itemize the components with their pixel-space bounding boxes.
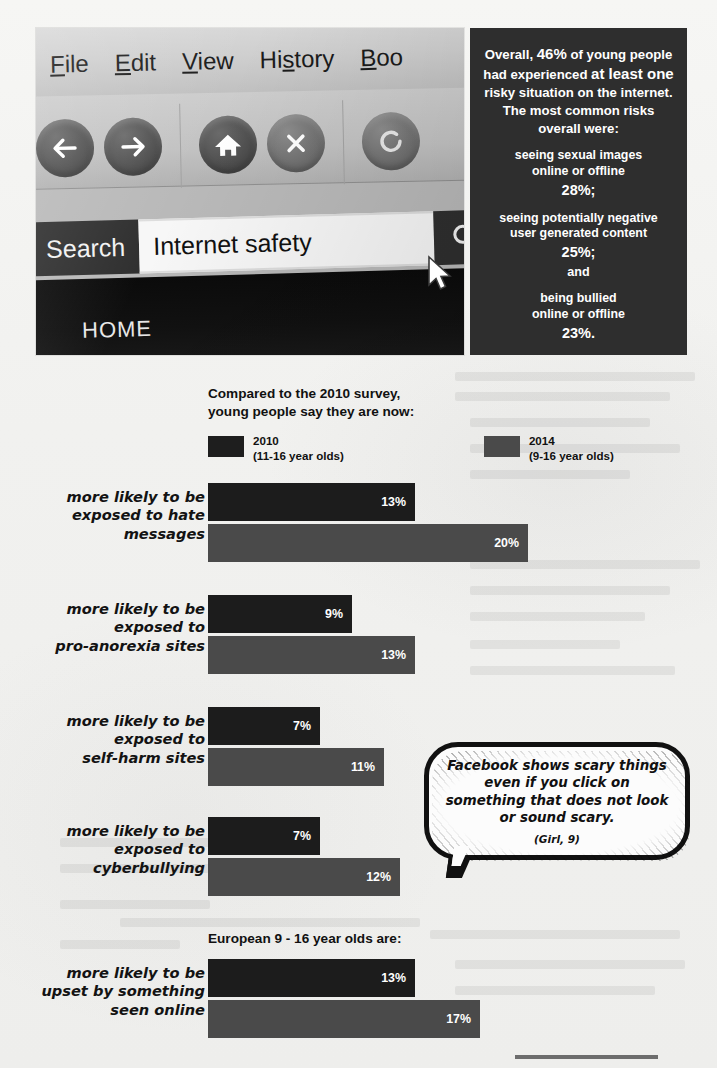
legend-entry-2010: 2010 (11-16 year olds) [208,434,344,464]
overall-stats-panel: Overall, 46% of young people had experie… [470,28,687,355]
quote-text: Facebook shows scary things even if you … [429,757,685,827]
legend-label-2014: 2014 (9-16 year olds) [529,434,614,464]
background-ghost-text [455,986,655,995]
background-ghost-text [455,392,670,401]
bar-value-label: 9% [325,607,343,621]
legend-swatch-2010 [208,436,244,457]
browser-screenshot-photo: File Edit View History Boo Search Intern… [36,28,464,355]
legend-2010-name: 2010 [253,434,279,447]
risk-conjunction: and [481,264,676,280]
home-icon[interactable] [198,115,257,174]
menu-item-file[interactable]: File [50,50,89,79]
chart-title-primary: Compared to the 2010 survey, young peopl… [208,385,414,421]
background-ghost-text [120,918,420,927]
background-ghost-text [60,900,210,909]
bar-2014: 11% [208,748,384,786]
mouse-pointer-icon [426,255,456,299]
bar-value-label: 13% [381,495,406,509]
risk-item-1: seeing sexual images online or offline 2… [481,148,676,199]
magnifier-icon [447,220,464,255]
risk-item-2: seeing potentially negative user generat… [481,211,676,280]
legend-2010-sub: (11-16 year olds) [253,449,344,462]
bar-group-label: more likely to be exposed to self-harm s… [0,712,205,767]
lead-part-1: Overall, [485,47,537,62]
bubble-body: Facebook shows scary things even if you … [424,742,690,860]
bar-value-label: 20% [494,536,519,550]
background-ghost-text [470,640,620,649]
bar-value-label: 7% [293,829,311,843]
back-arrow-icon[interactable] [36,119,95,178]
forward-arrow-icon[interactable] [103,117,162,176]
bar-2010: 13% [208,959,415,997]
toolbar-divider [179,104,182,188]
stop-icon[interactable] [266,114,325,173]
bar-pair: 7% 12% [208,817,400,899]
risk-1-percentage: 28%; [481,181,676,200]
bar-2010: 9% [208,595,352,633]
background-ghost-text [60,940,180,949]
bar-value-label: 12% [366,870,391,884]
toolbar-divider [342,100,345,184]
bar-pair: 13% 20% [208,483,528,565]
footer-divider-rule [515,1055,658,1059]
search-label: Search [36,219,140,276]
menu-item-history[interactable]: History [259,45,334,75]
bar-2010: 7% [208,817,320,855]
bar-pair: 13% 17% [208,959,480,1041]
risk-2-text: seeing potentially negative user generat… [499,211,657,241]
reload-icon[interactable] [361,112,420,171]
bar-pair: 7% 11% [208,707,384,789]
background-ghost-text [470,470,630,479]
browser-toolbar-buttons [36,93,464,195]
legend-label-2010: 2010 (11-16 year olds) [253,434,344,464]
bar-value-label: 17% [446,1012,471,1026]
background-ghost-text [455,960,685,969]
risk-1-text: seeing sexual images online or offline [515,148,642,178]
search-bar: Search Internet safety [36,209,464,276]
legend-entry-2014: 2014 (9-16 year olds) [484,434,614,464]
bar-value-label: 11% [351,760,375,774]
lead-percentage: 46% [537,45,567,62]
bar-value-label: 13% [381,971,406,985]
risk-2-percentage: 25%; [481,243,676,262]
chart-title-secondary: European 9 - 16 year olds are: [208,930,401,948]
bar-2010: 13% [208,483,415,521]
bar-2014: 17% [208,1000,480,1038]
bar-group-label: more likely to be exposed to hate messag… [0,488,205,543]
bar-group-label: more likely to be exposed to cyberbullyi… [0,822,205,877]
quote-attribution: (Girl, 9) [534,833,580,845]
background-ghost-text [430,930,680,939]
bar-group-label: more likely to be upset by something see… [0,964,205,1019]
background-ghost-text [470,586,670,595]
menu-item-bookmarks[interactable]: Boo [360,43,403,72]
bar-value-label: 13% [381,648,406,662]
overall-lead-text: Overall, 46% of young people had experie… [483,44,674,137]
menu-item-view[interactable]: View [182,47,234,76]
bar-2010: 7% [208,707,320,745]
lead-emphasis: at least one [591,65,674,82]
search-input[interactable]: Internet safety [139,211,435,273]
legend-swatch-2014 [484,436,520,457]
bar-2014: 12% [208,858,400,896]
bar-value-label: 7% [293,719,311,733]
legend-2014-sub: (9-16 year olds) [529,449,614,462]
background-ghost-text [470,666,675,675]
risk-item-3: being bullied online or offline 23%. [481,291,676,342]
browser-menu-list: File Edit View History Boo [36,28,464,95]
background-ghost-text [470,418,650,427]
risk-3-text: being bullied online or offline [532,291,625,321]
bar-2014: 20% [208,524,528,562]
background-ghost-text [455,372,695,381]
risk-3-percentage: 23%. [481,324,676,343]
bubble-tail-inner [452,846,470,866]
quote-speech-bubble: Facebook shows scary things even if you … [424,742,690,867]
legend-2014-name: 2014 [529,434,555,447]
lead-part-3: risky situation on the internet. The mos… [484,85,672,135]
bar-pair: 9% 13% [208,595,415,677]
background-ghost-text [470,612,645,621]
menu-item-edit[interactable]: Edit [114,48,156,77]
chart-legend: 2010 (11-16 year olds) 2014 (9-16 year o… [208,434,614,464]
bar-2014: 13% [208,636,415,674]
bar-group-label: more likely to be exposed to pro-anorexi… [0,600,205,655]
